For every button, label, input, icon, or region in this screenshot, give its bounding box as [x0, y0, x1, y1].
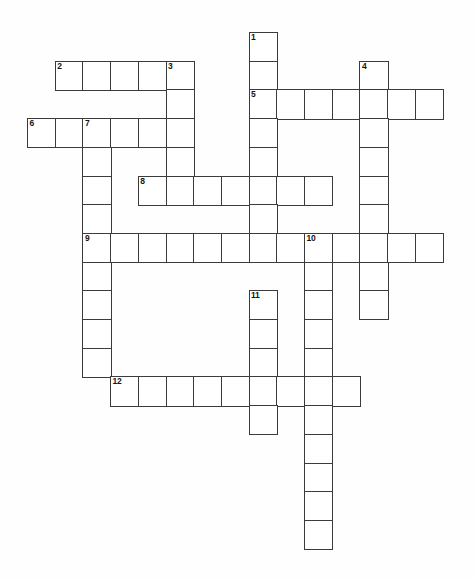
crossword-cell[interactable]: 7 [82, 118, 111, 148]
cell-number-6: 6 [30, 119, 34, 128]
crossword-cell[interactable] [332, 376, 361, 406]
cell-number-7: 7 [85, 119, 89, 128]
crossword-cell[interactable]: 6 [27, 118, 56, 148]
crossword-cell[interactable] [387, 89, 416, 119]
cell-number-1: 1 [251, 33, 255, 42]
crossword-cell[interactable] [304, 348, 333, 378]
crossword-cell[interactable]: 3 [166, 61, 195, 91]
crossword-cell[interactable] [138, 61, 167, 91]
crossword-cell[interactable] [249, 176, 278, 206]
crossword-cell[interactable] [276, 376, 305, 406]
crossword-cell[interactable] [359, 118, 388, 148]
crossword-cell[interactable] [249, 61, 278, 91]
cell-number-11: 11 [251, 291, 259, 300]
crossword-cell[interactable] [359, 290, 388, 320]
crossword-cell[interactable] [82, 147, 111, 177]
crossword-cell[interactable] [249, 204, 278, 234]
crossword-cell[interactable] [415, 89, 444, 119]
crossword-cell[interactable] [55, 118, 84, 148]
crossword-cell[interactable] [82, 290, 111, 320]
crossword-cell[interactable] [82, 319, 111, 349]
crossword-cell[interactable] [304, 290, 333, 320]
crossword-cell[interactable] [359, 204, 388, 234]
cell-number-2: 2 [57, 62, 61, 71]
crossword-cell[interactable] [415, 233, 444, 263]
crossword-cell[interactable]: 11 [249, 290, 278, 320]
crossword-cell[interactable] [359, 176, 388, 206]
crossword-cell[interactable] [166, 233, 195, 263]
crossword-cell[interactable] [359, 147, 388, 177]
crossword-cell[interactable] [359, 262, 388, 292]
crossword-cell[interactable]: 8 [138, 176, 167, 206]
crossword-cell[interactable] [166, 147, 195, 177]
crossword-cell[interactable] [138, 376, 167, 406]
crossword-cell[interactable] [332, 89, 361, 119]
crossword-cell[interactable] [249, 233, 278, 263]
crossword-cell[interactable] [82, 262, 111, 292]
crossword-cell[interactable] [304, 376, 333, 406]
crossword-cell[interactable] [359, 233, 388, 263]
crossword-cell[interactable] [249, 319, 278, 349]
cell-number-10: 10 [307, 234, 316, 243]
crossword-cell[interactable] [138, 233, 167, 263]
cell-number-12: 12 [113, 377, 122, 386]
crossword-cell[interactable] [304, 434, 333, 464]
crossword-cell[interactable] [82, 61, 111, 91]
crossword-cell[interactable]: 1 [249, 32, 278, 62]
crossword-cell[interactable] [332, 233, 361, 263]
cell-number-8: 8 [140, 177, 144, 186]
crossword-cell[interactable]: 10 [304, 233, 333, 263]
cell-number-4: 4 [362, 62, 366, 71]
crossword-cell[interactable] [193, 233, 222, 263]
crossword-cell[interactable] [249, 348, 278, 378]
crossword-cell[interactable] [166, 118, 195, 148]
crossword-cell[interactable] [304, 491, 333, 521]
crossword-cell[interactable] [166, 176, 195, 206]
crossword-cell[interactable] [82, 348, 111, 378]
crossword-cell[interactable] [110, 61, 139, 91]
crossword-cell[interactable] [304, 520, 333, 550]
crossword-cell[interactable] [249, 405, 278, 435]
crossword-cell[interactable] [166, 89, 195, 119]
crossword-cell[interactable] [304, 176, 333, 206]
crossword-cell[interactable] [304, 89, 333, 119]
crossword-cell[interactable]: 5 [249, 89, 278, 119]
cell-number-3: 3 [168, 62, 172, 71]
crossword-cell[interactable] [193, 176, 222, 206]
crossword-cell[interactable] [110, 233, 139, 263]
cell-number-9: 9 [85, 234, 89, 243]
crossword-cell[interactable] [249, 118, 278, 148]
crossword-cell[interactable]: 2 [55, 61, 84, 91]
crossword-cell[interactable]: 9 [82, 233, 111, 263]
crossword-cell[interactable] [193, 376, 222, 406]
crossword-cell[interactable] [276, 233, 305, 263]
crossword-cell[interactable] [138, 118, 167, 148]
crossword-cell[interactable] [221, 376, 250, 406]
crossword-cell[interactable]: 4 [359, 61, 388, 91]
crossword-cell[interactable] [304, 463, 333, 493]
crossword-cell[interactable] [249, 147, 278, 177]
crossword-cell[interactable] [249, 376, 278, 406]
crossword-grid[interactable]: 123456789101112 [0, 0, 474, 580]
crossword-cell[interactable] [276, 89, 305, 119]
crossword-cell[interactable] [82, 204, 111, 234]
crossword-cell[interactable] [304, 262, 333, 292]
crossword-cell[interactable] [221, 176, 250, 206]
crossword-cell[interactable] [304, 319, 333, 349]
crossword-cell[interactable] [221, 233, 250, 263]
cell-number-5: 5 [251, 90, 255, 99]
crossword-cell[interactable] [166, 376, 195, 406]
crossword-cell[interactable] [276, 176, 305, 206]
crossword-cell[interactable] [110, 118, 139, 148]
crossword-cell[interactable] [82, 176, 111, 206]
crossword-cell[interactable] [359, 89, 388, 119]
crossword-cell[interactable] [387, 233, 416, 263]
crossword-cell[interactable]: 12 [110, 376, 139, 406]
crossword-cell[interactable] [304, 405, 333, 435]
